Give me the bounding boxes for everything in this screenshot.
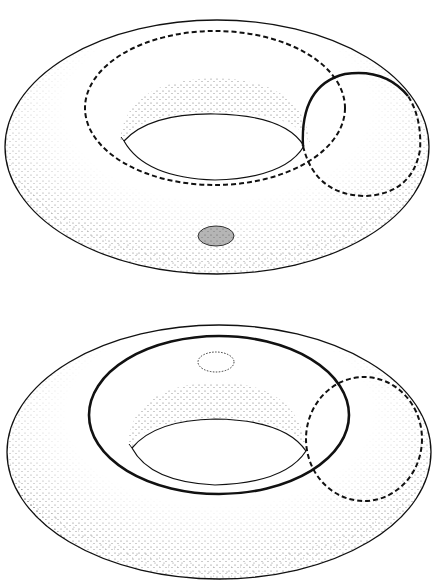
torus-figure-top <box>0 0 442 300</box>
small-disk-stipple <box>198 226 234 246</box>
torus-figure-bottom <box>0 300 442 588</box>
torus-diagram-top <box>0 0 442 300</box>
torus-diagram-bottom <box>0 300 442 588</box>
surface-shading <box>7 324 431 580</box>
